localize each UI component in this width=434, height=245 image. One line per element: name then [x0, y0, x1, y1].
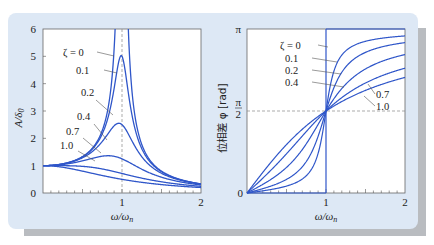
amplitude-x-axis-label: ω/ωn — [111, 210, 134, 224]
label-zeta-1.0: 1.0 — [376, 101, 389, 112]
label-zeta-0.1: 0.1 — [285, 53, 298, 64]
y-tick-5: 5 — [31, 50, 37, 62]
label-zeta-0.1: 0.1 — [76, 65, 89, 76]
amplitude-y-axis-label: A/δ0 — [12, 109, 26, 129]
label-zeta-0.4: 0.4 — [285, 77, 299, 88]
y-tick-2: 2 — [31, 132, 37, 144]
x-tick-2: 2 — [402, 196, 408, 208]
y-tick-1: 1 — [31, 160, 37, 172]
label-zeta-0.2: 0.2 — [285, 65, 298, 76]
y-tick-pi: π — [235, 23, 241, 35]
x-tick-2: 2 — [198, 196, 204, 208]
label-zeta-0: ζ = 0 — [63, 47, 84, 59]
phase-chart: π π 2 0 1 2 ω/ωn 位相差 φ [rad] ζ = 0 0.1 0… — [216, 23, 408, 224]
figure-canvas: 6 5 4 3 2 1 0 1 2 ω/ωn A/δ0 ζ = 0 0.1 0.… — [0, 0, 434, 245]
y-tick-6: 6 — [31, 23, 37, 35]
y-tick-0: 0 — [31, 187, 37, 199]
y-tick-0: 0 — [238, 187, 244, 199]
label-zeta-0.4: 0.4 — [77, 111, 91, 122]
x-tick-1: 1 — [323, 196, 329, 208]
label-zeta-0: ζ = 0 — [280, 40, 301, 52]
phase-x-axis-label: ω/ωn — [315, 210, 338, 224]
y-tick-4: 4 — [31, 78, 37, 90]
label-zeta-0.7: 0.7 — [376, 89, 389, 100]
label-zeta-0.7: 0.7 — [66, 126, 79, 137]
y-tick-3: 3 — [31, 105, 37, 117]
y-tick-half-pi-den: 2 — [236, 108, 242, 120]
label-zeta-1.0: 1.0 — [60, 140, 73, 151]
phase-y-axis-label: 位相差 φ [rad] — [216, 83, 228, 152]
y-tick-half-pi-num: π — [235, 96, 241, 108]
amplitude-chart: 6 5 4 3 2 1 0 1 2 ω/ωn A/δ0 ζ = 0 0.1 0.… — [12, 13, 204, 224]
label-zeta-0.2: 0.2 — [81, 87, 94, 98]
x-tick-1: 1 — [119, 196, 125, 208]
